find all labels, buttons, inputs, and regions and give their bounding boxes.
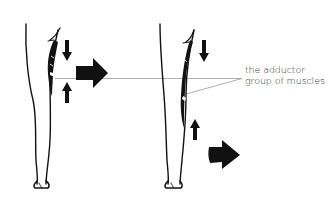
left-adductor-muscle <box>48 40 58 96</box>
label-line-1: the adductor <box>245 64 325 75</box>
left-leg-arrows <box>62 40 108 103</box>
diagonal-leader-line <box>186 79 242 95</box>
right-arrow-icon <box>208 140 240 169</box>
leader-lines <box>55 79 242 95</box>
label-line-2: group of muscles <box>245 75 325 86</box>
up-arrow-icon <box>190 119 200 140</box>
adductor-label: the adductor group of muscles <box>245 64 325 86</box>
down-arrow-icon <box>62 40 72 61</box>
right-leg-outer-contour <box>160 24 168 184</box>
left-leg-outer-contour <box>26 24 38 184</box>
up-arrow-icon <box>62 82 72 103</box>
down-arrow-icon <box>199 40 209 62</box>
adductor-diagram <box>0 0 335 209</box>
right-arrow-icon <box>76 58 108 88</box>
right-leg-arrows <box>190 40 240 169</box>
